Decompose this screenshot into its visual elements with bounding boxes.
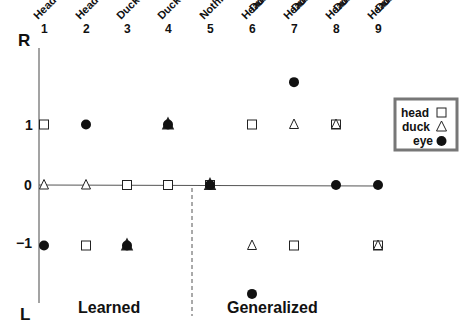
legend-label-eye: eye [413,134,433,148]
column-number: 4 [165,22,172,36]
scatter-chart: R L 1 0 −1 Learned Generalized 1Head R2H… [0,0,460,331]
head-square-marker [164,181,173,190]
head-square-marker [82,241,91,250]
duck-triangle-marker [82,180,91,190]
column-header-label: Head R [323,0,358,21]
column-number: 8 [333,22,340,36]
legend-label-duck: duck [402,120,430,134]
column-number: 9 [375,22,382,36]
eye-circle-marker [289,77,299,87]
column-number: 3 [124,22,131,36]
y-tick-minus1: −1 [16,235,32,251]
column-number: 2 [83,22,90,36]
column-header-label: Duck L [114,0,149,21]
legend-label-head: head [401,106,429,120]
column-header-label: Head L [281,0,316,21]
eye-circle-marker [122,241,132,251]
y-bottom-label-l: L [20,305,30,324]
eye-circle-marker [331,180,341,190]
legend-filled-circle-icon [437,136,447,146]
head-square-marker [40,120,49,129]
y-top-label-r: R [18,31,30,50]
y-tick-1: 1 [25,117,33,133]
legend: head duck eye [395,99,457,150]
column-header-label: Head L [73,0,108,21]
legend-square-icon [437,108,446,117]
column-number: 7 [291,22,298,36]
column-number: 6 [249,22,256,36]
head-square-marker [123,181,132,190]
head-square-marker [290,241,299,250]
head-square-marker [248,120,257,129]
column-number: 5 [207,22,214,36]
column-number: 1 [41,22,48,36]
eye-circle-marker [373,180,383,190]
duck-triangle-marker [290,119,299,129]
column-header-label: Duck R [155,0,190,21]
column-header-label: Head R [31,0,66,21]
column-header-label: Head R [239,0,274,21]
data-markers [39,77,383,299]
y-tick-0: 0 [24,177,32,193]
column-headers: 1Head R2Head L3Duck L4Duck R5Nothing6Duc… [31,0,407,36]
column-header-label: Head L [365,0,400,21]
duck-triangle-marker [248,240,257,250]
region-label-generalized: Generalized [227,299,318,316]
duck-triangle-marker [40,180,49,190]
eye-circle-marker [39,241,49,251]
eye-circle-marker [81,120,91,130]
eye-circle-marker [163,120,173,130]
eye-circle-marker [205,180,215,190]
eye-circle-marker [247,289,257,299]
column-header-label: Nothing [197,0,235,21]
region-label-learned: Learned [78,299,140,316]
